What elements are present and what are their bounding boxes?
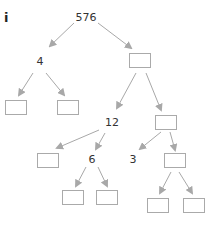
arrow-edge-bR2R-to-bR3L bbox=[160, 172, 171, 193]
arrow-edge-n12-to-n6 bbox=[96, 133, 105, 149]
factor-tree-diagram: i 57641263 bbox=[0, 0, 212, 225]
arrow-edge-n4-to-bLR bbox=[46, 73, 64, 95]
arrow-edge-bR1-to-n12 bbox=[117, 73, 136, 108]
empty-answer-box[interactable] bbox=[37, 153, 59, 168]
factor-number: 4 bbox=[37, 55, 44, 68]
empty-answer-box[interactable] bbox=[183, 198, 205, 213]
empty-answer-box[interactable] bbox=[155, 115, 177, 130]
arrow-edge-bR2-to-n3 bbox=[140, 132, 161, 149]
arrow-edge-n6-to-b6L bbox=[76, 167, 86, 186]
arrow-edge-n6-to-b6R bbox=[98, 167, 107, 186]
arrow-edge-n12-to-b12L bbox=[57, 130, 99, 148]
arrow-edge-n4-to-bLL bbox=[19, 73, 33, 95]
part-label: i bbox=[4, 10, 8, 25]
factor-number: 12 bbox=[105, 116, 119, 129]
empty-answer-box[interactable] bbox=[96, 190, 118, 205]
arrow-edge-bR1-to-bR2 bbox=[146, 73, 161, 110]
empty-answer-box[interactable] bbox=[147, 198, 169, 213]
factor-number: 3 bbox=[130, 153, 137, 166]
empty-answer-box[interactable] bbox=[62, 190, 84, 205]
empty-answer-box[interactable] bbox=[129, 53, 151, 68]
arrow-edge-bR2R-to-bR3R bbox=[179, 172, 192, 193]
empty-answer-box[interactable] bbox=[164, 153, 186, 168]
empty-answer-box[interactable] bbox=[57, 100, 79, 115]
arrow-edge-n576-to-n4 bbox=[50, 23, 74, 46]
arrow-edge-n576-to-bR1 bbox=[98, 23, 131, 48]
empty-answer-box[interactable] bbox=[5, 100, 27, 115]
factor-number: 6 bbox=[89, 153, 96, 166]
factor-number: 576 bbox=[76, 11, 97, 24]
arrow-edge-bR2-to-bR2R bbox=[170, 132, 175, 150]
